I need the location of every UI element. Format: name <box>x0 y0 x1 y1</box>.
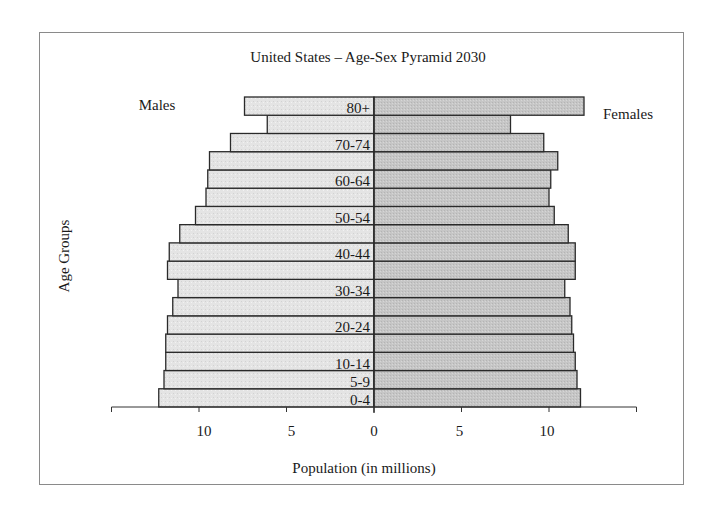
female-bar-10-14 <box>374 352 575 370</box>
category-label-40-44: 40-44 <box>335 246 370 262</box>
x-axis: 1050510 <box>112 407 637 439</box>
female-bar-60-64 <box>374 170 551 188</box>
x-tick-label: 0 <box>370 423 378 439</box>
category-label-60-64: 60-64 <box>335 173 370 189</box>
category-label-80+: 80+ <box>347 100 370 116</box>
male-bar-45-49 <box>180 225 374 243</box>
female-bar-0-4 <box>374 389 581 407</box>
category-label-50-54: 50-54 <box>335 210 370 226</box>
female-bar-35-39 <box>374 261 575 279</box>
female-bar-80+ <box>374 97 584 115</box>
category-label-70-74: 70-74 <box>335 137 370 153</box>
category-label-30-34: 30-34 <box>335 283 370 299</box>
category-label-5-9: 5-9 <box>350 374 370 390</box>
male-bar-55-59 <box>206 188 374 206</box>
y-axis-label: Age Groups <box>56 219 72 292</box>
category-label-10-14: 10-14 <box>335 356 370 372</box>
male-bar-0-4 <box>159 389 374 407</box>
female-bar-40-44 <box>374 243 575 261</box>
female-bar-70-74 <box>374 133 544 151</box>
x-tick-label: 5 <box>456 423 464 439</box>
female-bar-50-54 <box>374 206 554 224</box>
x-axis-label: Population (in millions) <box>292 460 435 477</box>
chart-title: United States – Age-Sex Pyramid 2030 <box>250 49 485 65</box>
male-bar-35-39 <box>168 261 375 279</box>
population-pyramid-chart: United States – Age-Sex Pyramid 2030 Mal… <box>0 0 720 515</box>
female-bar-65-69 <box>374 152 558 170</box>
male-bar-25-29 <box>173 298 374 316</box>
female-bar-5-9 <box>374 371 577 389</box>
category-label-0-4: 0-4 <box>350 392 370 408</box>
x-tick-label: 10 <box>197 423 212 439</box>
female-bar-45-49 <box>374 225 568 243</box>
x-tick-label: 10 <box>540 423 555 439</box>
male-bar-5-9 <box>164 371 374 389</box>
female-bar-75-79 <box>374 115 511 133</box>
category-label-20-24: 20-24 <box>335 319 370 335</box>
female-bar-30-34 <box>374 279 565 297</box>
x-tick-label: 5 <box>288 423 296 439</box>
female-bar-25-29 <box>374 298 570 316</box>
female-bar-20-24 <box>374 316 572 334</box>
male-bar-15-19 <box>166 334 374 352</box>
category-labels-group: 0-45-910-1420-2430-3440-4450-5460-6470-7… <box>335 100 370 408</box>
male-bar-75-79 <box>267 115 374 133</box>
female-bar-55-59 <box>374 188 549 206</box>
bars-group <box>159 97 584 413</box>
females-label: Females <box>603 106 653 122</box>
male-bar-65-69 <box>210 152 375 170</box>
female-bar-15-19 <box>374 334 574 352</box>
males-label: Males <box>139 97 176 113</box>
